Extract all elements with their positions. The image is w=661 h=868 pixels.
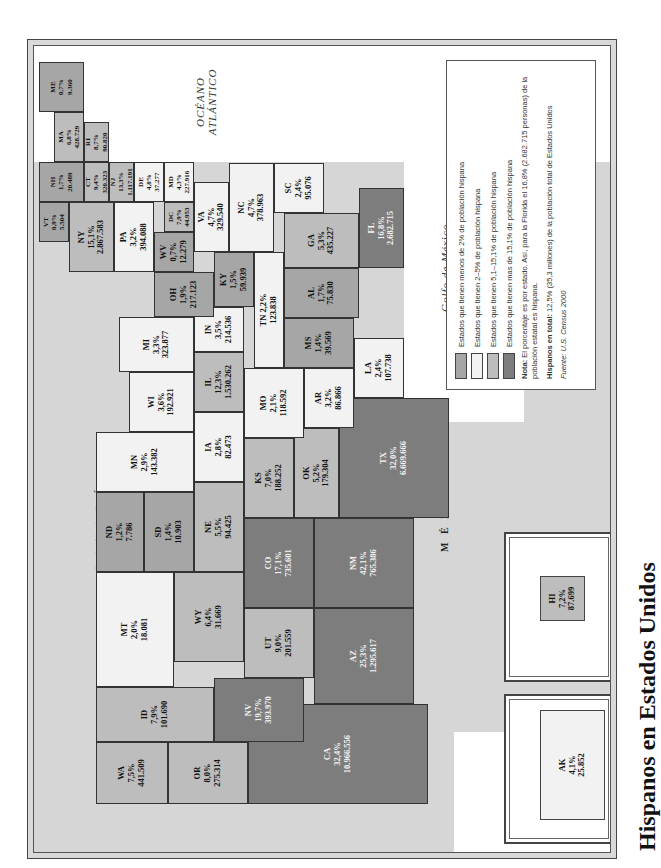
map-canvas: C A N A D Á M É X I C O OCÉANO PACÍFICO …	[27, 39, 617, 859]
state-md[interactable]: MD4,3%227.916	[164, 162, 194, 202]
state-ia[interactable]: IA2,8%82.473	[194, 412, 244, 482]
state-ok[interactable]: OK5,2%179.304	[294, 428, 339, 518]
state-co[interactable]: CO17,1%735.601	[244, 518, 314, 608]
legend-item: Estados que tienen 2–5% de población his…	[471, 71, 483, 379]
map-frame: C A N A D Á M É X I C O OCÉANO PACÍFICO …	[27, 39, 617, 859]
state-ma[interactable]: MA6,8%428.729	[54, 112, 84, 162]
state-ms[interactable]: MS1,4%39.569	[284, 318, 354, 368]
atlantic-label: OCÉANO ATLÁNTICO	[194, 67, 218, 137]
legend-swatch	[455, 353, 467, 379]
state-ks[interactable]: KS7,0%188.252	[244, 438, 294, 518]
state-nv[interactable]: NV19,7%393.970	[214, 678, 304, 742]
state-al[interactable]: AL1,7%75.830	[284, 268, 359, 318]
state-nm[interactable]: NM42,1%765.386	[314, 518, 414, 608]
state-nj[interactable]: NJ13,3%1.117.191	[109, 162, 134, 202]
legend-source: Fuente: U.S. Census 2000	[559, 71, 569, 379]
hawaii-inset: HI7,2%87.699	[504, 532, 611, 682]
state-me[interactable]: ME0,7%9.360	[39, 62, 84, 112]
state-ut[interactable]: UT9,0%201.559	[244, 608, 314, 678]
map-area: C A N A D Á M É X I C O OCÉANO PACÍFICO …	[33, 45, 611, 853]
legend-total: Hispanos en total: 12,5% (35,3 millones)…	[545, 71, 555, 379]
state-ne[interactable]: NE5,5%94.425	[194, 482, 244, 572]
state-sd[interactable]: SD1,4%10.903	[144, 492, 194, 572]
state-fl[interactable]: FL16,8%2.682.715	[359, 188, 404, 268]
alaska-inset: AK4,1%25.852	[504, 694, 611, 844]
state-mt[interactable]: MT2,0%18.081	[96, 572, 174, 687]
state-sc[interactable]: SC2,4%95.076	[274, 163, 324, 213]
legend-note: Nota: El porcentaje es por estado. Así, …	[520, 71, 540, 379]
state-nd[interactable]: ND1,2%7.786	[96, 492, 144, 572]
page-title: Hispanos en Estados Unidos	[634, 562, 661, 851]
state-ct[interactable]: CT9,4%320.323	[84, 162, 109, 202]
legend-item: Estados que tienen mas de 15,1% de pobla…	[503, 71, 515, 379]
state-nc[interactable]: NC4,7%378.963	[229, 163, 274, 252]
state-wi[interactable]: WI3,6%192.921	[129, 372, 194, 432]
state-nh[interactable]: NH1,7%20.489	[39, 162, 84, 202]
legend-item: Estados que tienen 5,1–15,1% de població…	[487, 71, 499, 379]
state-wa[interactable]: WA7,5%441.509	[96, 742, 168, 804]
state-mn[interactable]: MN2,9%143.382	[96, 432, 194, 492]
state-oh[interactable]: OH1,9%217.123	[154, 272, 214, 317]
state-ri[interactable]: RI8,7%90.820	[84, 122, 109, 162]
state-ky[interactable]: KY1,5%59.939	[214, 252, 254, 307]
state-il[interactable]: IL12,3%1.530.262	[194, 352, 244, 412]
state-id[interactable]: ID7,9%101.690	[96, 687, 214, 742]
state-pa[interactable]: PA3,2%394.088	[114, 202, 154, 272]
state-az[interactable]: AZ25,3%1.295.617	[314, 608, 414, 704]
state-ny[interactable]: NY15,1%2.867.583	[69, 202, 114, 272]
state-tx[interactable]: TX32,0%6.669.666	[339, 398, 449, 518]
legend-item: Estados que tienen menos de 2% de poblac…	[455, 71, 467, 379]
state-tn[interactable]: TN 2,2%123.838	[254, 252, 284, 368]
state-wv[interactable]: WV0,7%12.279	[154, 232, 194, 272]
state-mo[interactable]: MO2,1%118.592	[244, 368, 304, 438]
state-ga[interactable]: GA5,3%435.227	[284, 213, 359, 268]
legend: Estados que tienen menos de 2% de poblac…	[446, 60, 596, 390]
legend-swatch	[487, 353, 499, 379]
state-vt[interactable]: VT0,9%5.504	[39, 202, 69, 242]
state-mi[interactable]: MI3,3%323.877	[119, 317, 194, 372]
legend-swatch	[503, 353, 515, 379]
state-wy[interactable]: WY6,4%31.669	[174, 572, 244, 662]
state-or[interactable]: OR8,0%275.314	[168, 742, 248, 804]
state-dc[interactable]: DC7,9%44.953	[164, 202, 194, 232]
state-de[interactable]: DE4,8%37.277	[134, 162, 164, 202]
state-va[interactable]: VA4,7%329.540	[194, 182, 229, 252]
state-ar[interactable]: AR3,2%86.866	[304, 368, 354, 428]
state-ak[interactable]: AK4,1%25.852	[540, 710, 605, 820]
legend-swatch	[471, 353, 483, 379]
state-hi[interactable]: HI7,2%87.699	[540, 576, 585, 621]
state-la[interactable]: LA2,4%107.738	[354, 338, 404, 398]
